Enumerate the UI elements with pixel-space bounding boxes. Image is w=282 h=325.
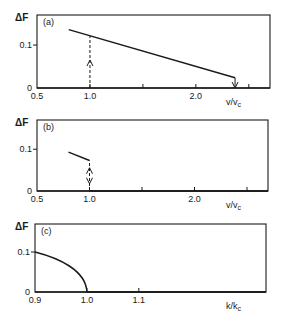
x-axis-label: k/kc: [226, 301, 242, 312]
axes-frame: [35, 224, 266, 292]
x-tick-label: 2.0: [190, 91, 203, 101]
panel-c: 0.91.01.100.1ΔF(c)k/kc: [15, 221, 266, 312]
x-axis-label: v/vc: [226, 97, 242, 108]
x-tick-label: 0.5: [31, 194, 44, 204]
y-tick-label: 0: [25, 287, 30, 297]
data-line: [69, 30, 235, 78]
data-line: [69, 152, 90, 160]
x-tick-label: 1.0: [84, 91, 97, 101]
x-tick-label: 0.9: [29, 295, 42, 305]
panel-a: 0.51.02.000.1ΔF(a)v/vc: [15, 12, 270, 108]
data-line: [35, 252, 87, 292]
y-tick-label: 0.1: [17, 247, 30, 257]
figure: 0.51.02.000.1ΔF(a)v/vc0.51.02.000.1ΔF(b)…: [0, 0, 282, 325]
panel-label: (a): [43, 17, 54, 27]
panel-label: (b): [43, 122, 54, 132]
x-axis-label: v/vc: [226, 200, 242, 211]
x-tick-label: 1.0: [81, 295, 94, 305]
y-tick-label: 0: [27, 83, 32, 93]
y-axis-label: ΔF: [15, 12, 28, 23]
y-tick-label: 0: [27, 186, 32, 196]
y-axis-label: ΔF: [15, 221, 28, 232]
panel-b: 0.51.02.000.1ΔF(b)v/vc: [15, 117, 268, 211]
x-tick-label: 1.0: [83, 194, 96, 204]
x-tick-label: 1.1: [133, 295, 146, 305]
y-tick-label: 0.1: [19, 144, 32, 154]
y-axis-label: ΔF: [15, 117, 28, 128]
axes-frame: [37, 120, 268, 191]
y-tick-label: 0.1: [19, 40, 32, 50]
panel-label: (c): [41, 226, 52, 236]
x-tick-label: 2.0: [188, 194, 201, 204]
x-tick-label: 0.5: [31, 91, 44, 101]
